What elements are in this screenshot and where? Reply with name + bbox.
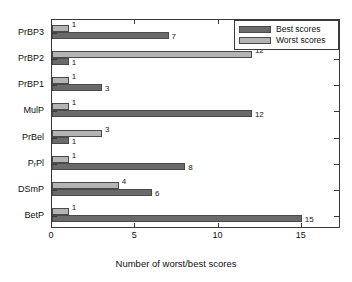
bar-value-label: 15 xyxy=(305,216,314,224)
x-axis-tick-label: 0 xyxy=(48,230,53,240)
legend-swatch-best-scores xyxy=(239,26,271,33)
x-axis-tick-label: 15 xyxy=(296,230,306,240)
x-axis-tick-mark-top xyxy=(134,19,135,24)
bar-worst-scores xyxy=(52,77,69,84)
bar-value-label: 6 xyxy=(155,190,159,198)
bar-group: 18 xyxy=(52,151,339,177)
bar-group: 31 xyxy=(52,125,339,151)
bar-worst-scores xyxy=(52,208,69,215)
bar-value-label: 3 xyxy=(105,126,109,134)
y-axis-tick-label: PrBP2 xyxy=(18,53,44,63)
y-axis-tick-mark xyxy=(52,164,57,165)
x-axis-ticks: 051015 xyxy=(0,228,352,248)
x-axis-tick-mark xyxy=(134,223,135,228)
y-axis-tick-mark xyxy=(334,164,339,165)
y-axis-tick-mark xyxy=(52,33,57,34)
y-axis-tick-mark xyxy=(334,59,339,60)
x-axis-tick-mark-top xyxy=(218,19,219,24)
x-axis-tick-label: 5 xyxy=(132,230,137,240)
bar-worst-scores xyxy=(52,156,69,163)
bar-worst-scores xyxy=(52,25,69,32)
x-axis-tick-mark xyxy=(218,223,219,228)
bar-best-scores xyxy=(52,84,102,91)
y-axis-tick-mark xyxy=(52,111,57,112)
x-axis-label: Number of worst/best scores xyxy=(0,258,352,269)
bar-value-label: 4 xyxy=(122,178,126,186)
bar-value-label: 1 xyxy=(72,73,76,81)
x-axis-tick-mark xyxy=(51,223,52,228)
bar-group: 13 xyxy=(52,72,339,98)
x-axis-tick-mark xyxy=(301,223,302,228)
bar-value-label: 3 xyxy=(105,85,109,93)
bar-best-scores xyxy=(52,189,152,196)
chart-legend: Best scores Worst scores xyxy=(234,20,339,50)
y-axis-tick-mark xyxy=(52,190,57,191)
x-axis-tick-mark-top xyxy=(51,19,52,24)
legend-label-worst-scores: Worst scores xyxy=(276,36,325,45)
bar-worst-scores xyxy=(52,103,69,110)
bar-group: 112 xyxy=(52,98,339,124)
y-axis-tick-mark xyxy=(334,138,339,139)
bar-value-label: 1 xyxy=(72,138,76,146)
y-axis-tick-mark xyxy=(52,216,57,217)
bar-value-label: 12 xyxy=(255,111,264,119)
bar-value-label: 1 xyxy=(72,21,76,29)
y-axis-tick-label: PrBel xyxy=(22,132,44,142)
bar-best-scores xyxy=(52,110,252,117)
y-axis-tick-mark xyxy=(334,111,339,112)
y-axis-tick-mark xyxy=(334,216,339,217)
legend-entry-best: Best scores xyxy=(239,24,334,35)
y-axis-tick-mark xyxy=(52,138,57,139)
bar-best-scores xyxy=(52,32,169,39)
y-axis-tick-label: PrPl xyxy=(28,158,44,169)
y-axis-tick-label: MulP xyxy=(23,105,44,115)
bar-value-label: 1 xyxy=(72,152,76,160)
bar-best-scores xyxy=(52,215,302,222)
bar-chart-figure: PrBP3PrBP2PrBP1MulPPrBelPrPlDSmPBetP 171… xyxy=(0,0,352,282)
bar-worst-scores xyxy=(52,182,119,189)
bar-value-label: 1 xyxy=(72,59,76,67)
legend-entry-worst: Worst scores xyxy=(239,35,334,46)
y-axis-tick-mark xyxy=(52,59,57,60)
legend-label-best-scores: Best scores xyxy=(276,25,320,34)
legend-swatch-worst-scores xyxy=(239,37,271,44)
y-axis-category-labels: PrBP3PrBP2PrBP1MulPPrBelPrPlDSmPBetP xyxy=(0,19,48,228)
plot-area: 1712113112311846115 xyxy=(51,19,340,228)
bar-best-scores xyxy=(52,163,185,170)
y-axis-tick-label: BetP xyxy=(24,210,44,220)
bar-value-label: 1 xyxy=(72,204,76,212)
bar-group: 121 xyxy=(52,46,339,72)
x-axis-tick-label: 10 xyxy=(213,230,223,240)
bar-group: 46 xyxy=(52,177,339,203)
bar-group: 115 xyxy=(52,203,339,229)
bar-worst-scores xyxy=(52,51,252,58)
bar-value-label: 8 xyxy=(188,164,192,172)
y-axis-tick-mark xyxy=(52,85,57,86)
y-axis-tick-mark xyxy=(334,85,339,86)
y-axis-tick-label: PrBP3 xyxy=(18,27,44,37)
y-axis-tick-label: DSmP xyxy=(18,184,44,194)
y-axis-tick-mark xyxy=(334,190,339,191)
y-axis-tick-label: PrBP1 xyxy=(18,79,44,89)
bar-worst-scores xyxy=(52,130,102,137)
bar-value-label: 1 xyxy=(72,99,76,107)
bar-value-label: 7 xyxy=(172,33,176,41)
